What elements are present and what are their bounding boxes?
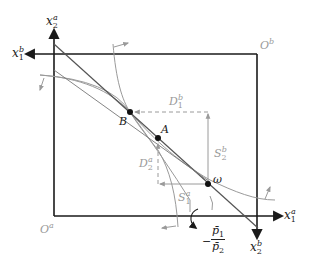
curve-direction-arrow — [114, 43, 128, 47]
label-x2a: x2a — [46, 14, 58, 30]
label-S1a: S1a — [178, 190, 190, 206]
label-B: B — [119, 116, 127, 127]
curve-direction-arrow — [265, 187, 270, 199]
origin-a: Oa — [40, 222, 54, 235]
angle-arc — [210, 196, 213, 210]
point-omega — [205, 181, 211, 187]
label-D2a: D2a — [139, 156, 153, 172]
label-D1b: D1b — [169, 94, 183, 110]
price-ratio-arrow — [191, 209, 198, 228]
price-ratio-sign: − — [202, 236, 211, 247]
price-ratio: p̄1 p̄2 — [211, 224, 225, 255]
point-B — [127, 109, 133, 115]
label-omega: ω — [213, 174, 222, 185]
label-x1b: x1b — [12, 46, 24, 62]
origin-b: Ob — [260, 38, 274, 51]
indifference-curve-a-1 — [40, 75, 190, 212]
curve-direction-arrow — [40, 78, 44, 90]
label-S2b: S2b — [214, 146, 227, 162]
curve-direction-arrow — [162, 226, 176, 228]
tangent-line — [54, 70, 210, 182]
label-x1a: x1a — [284, 208, 296, 224]
label-x2b: x2b — [250, 240, 262, 256]
label-A: A — [161, 124, 169, 135]
